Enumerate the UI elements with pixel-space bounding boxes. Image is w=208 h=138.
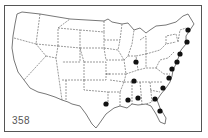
- occurrence-dot: [135, 95, 140, 100]
- figure-number: 358: [12, 115, 30, 126]
- occurrence-dot: [125, 97, 130, 102]
- occurrence-dot: [103, 101, 108, 106]
- us-outline: [12, 12, 194, 128]
- us-outline-map: [0, 0, 208, 138]
- occurrence-dot: [160, 85, 165, 90]
- occurrence-dot: [174, 59, 179, 64]
- occurrence-dot: [177, 51, 182, 56]
- occurrence-dot: [169, 66, 174, 71]
- occurrence-dot: [152, 96, 157, 101]
- occurrence-dot: [185, 27, 190, 32]
- occurrence-dot: [184, 39, 189, 44]
- occurrence-dot: [157, 108, 162, 113]
- occurrence-dot: [131, 78, 136, 83]
- occurrence-dot: [166, 75, 171, 80]
- occurrence-dot: [133, 59, 138, 64]
